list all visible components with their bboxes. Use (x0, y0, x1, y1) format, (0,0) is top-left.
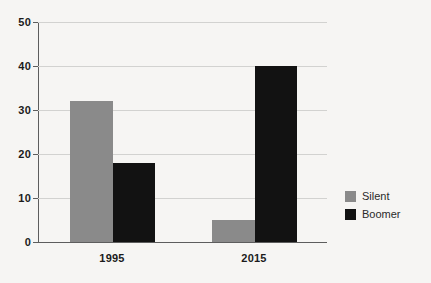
bar-silent-2015 (212, 220, 255, 242)
y-tick-label: 40 (3, 60, 31, 72)
legend-swatch-icon (345, 191, 356, 202)
x-tick-label-1995: 1995 (99, 252, 124, 264)
x-tick-label-2015: 2015 (241, 252, 266, 264)
bars-layer (38, 22, 327, 242)
bar-chart-figure: 50 40 30 20 10 0 1995 2015 Silent (0, 0, 431, 283)
y-tick-label: 20 (3, 148, 31, 160)
bar-boomer-2015 (255, 66, 297, 242)
legend-swatch-icon (345, 209, 356, 220)
y-tick-label: 10 (3, 192, 31, 204)
y-tick-label: 0 (3, 236, 31, 248)
plot-area (38, 22, 327, 242)
legend-item-boomer: Boomer (345, 208, 401, 220)
bar-silent-1995 (70, 101, 113, 242)
legend-item-silent: Silent (345, 190, 401, 202)
chart-legend: Silent Boomer (345, 190, 401, 220)
legend-label: Boomer (362, 208, 401, 220)
x-axis-baseline (38, 242, 327, 243)
bar-boomer-1995 (113, 163, 155, 242)
y-tick-label: 30 (3, 104, 31, 116)
y-axis-labels: 50 40 30 20 10 0 (0, 0, 31, 283)
y-tick-label: 50 (3, 16, 31, 28)
legend-label: Silent (362, 190, 390, 202)
